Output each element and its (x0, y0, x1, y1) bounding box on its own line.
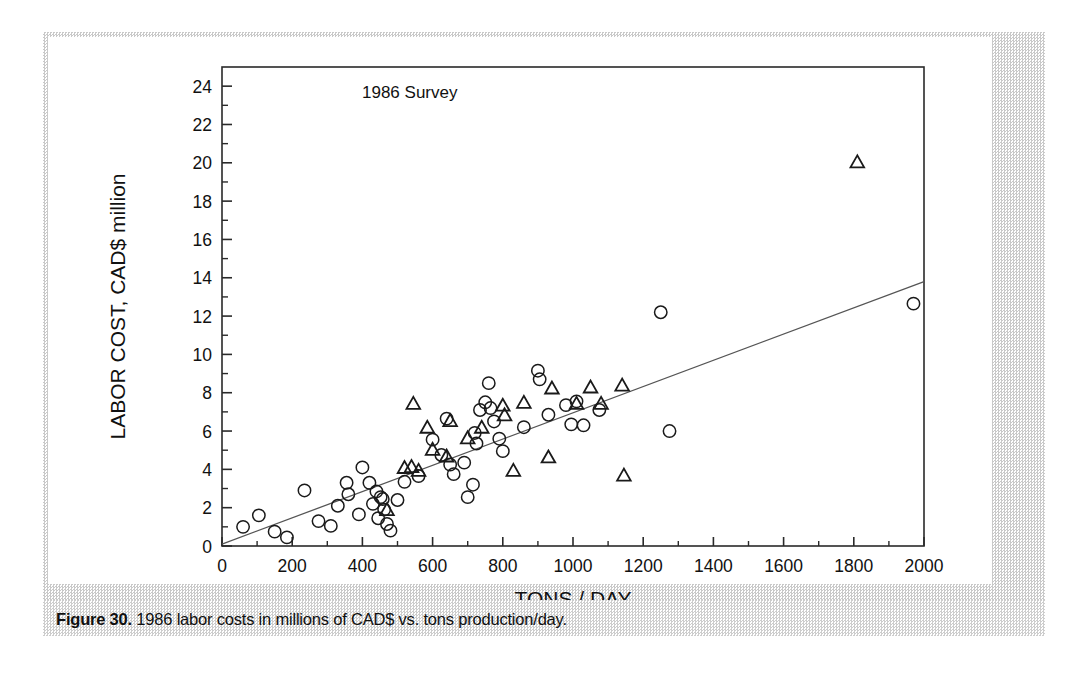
data-point-triangle (461, 431, 475, 443)
data-point-circle (340, 477, 352, 489)
x-tick-label: 200 (278, 556, 307, 576)
data-point-circle (281, 531, 293, 543)
y-tick-label: 14 (193, 268, 213, 288)
x-tick-label: 800 (488, 556, 517, 576)
data-point-circle (483, 377, 495, 389)
x-tick-label: 0 (217, 556, 227, 576)
data-point-circle (353, 508, 365, 520)
data-point-triangle (496, 399, 510, 411)
y-tick-label: 10 (193, 345, 213, 365)
data-point-circle (372, 512, 384, 524)
data-point-circle (593, 404, 605, 416)
data-point-triangle (517, 396, 531, 408)
data-point-circle (391, 494, 403, 506)
chart-svg: 0200400600800100012001400160018002000024… (0, 0, 1090, 674)
data-point-circle (312, 515, 324, 527)
x-tick-label: 600 (418, 556, 447, 576)
scatter-chart: 0200400600800100012001400160018002000024… (0, 0, 1090, 674)
data-point-circle (467, 478, 479, 490)
caption-figure-label: Figure 30. (56, 610, 132, 628)
x-tick-label: 1600 (764, 556, 803, 576)
data-point-triangle (507, 464, 521, 476)
x-tick-label: 1400 (694, 556, 733, 576)
data-point-triangle (615, 379, 629, 391)
y-tick-label: 0 (202, 537, 212, 557)
plot-annotation: 1986 Survey (362, 83, 458, 102)
series-circles (237, 297, 920, 543)
x-tick-label: 400 (348, 556, 377, 576)
data-point-circle (458, 456, 470, 468)
data-point-circle (325, 520, 337, 532)
y-tick-label: 2 (202, 498, 212, 518)
y-tick-label: 22 (193, 115, 212, 135)
x-tick-label: 2000 (905, 556, 944, 576)
x-tick-label: 1000 (554, 556, 593, 576)
x-tick-label: 1800 (834, 556, 873, 576)
data-point-circle (237, 521, 249, 533)
data-point-circle (356, 461, 368, 473)
data-point-triangle (851, 155, 865, 167)
y-tick-label: 8 (202, 383, 212, 403)
data-point-circle (907, 297, 919, 309)
data-point-circle (298, 484, 310, 496)
data-point-circle (542, 409, 554, 421)
data-point-triangle (617, 469, 631, 481)
y-tick-label: 18 (193, 192, 212, 212)
figure-caption: Figure 30. 1986 labor costs in millions … (56, 607, 1016, 631)
data-point-circle (577, 419, 589, 431)
trend-line (222, 282, 924, 544)
data-point-circle (363, 477, 375, 489)
plot-frame (222, 67, 924, 546)
data-point-circle (497, 445, 509, 457)
y-tick-label: 12 (193, 307, 212, 327)
data-point-circle (565, 418, 577, 430)
data-point-circle (462, 491, 474, 503)
caption-body-text: 1986 labor costs in millions of CAD$ vs.… (132, 610, 567, 628)
data-point-triangle (421, 421, 435, 433)
y-tick-label: 20 (193, 153, 213, 173)
y-tick-label: 6 (202, 422, 212, 442)
series-triangles (380, 155, 864, 515)
data-point-circle (655, 306, 667, 318)
y-tick-label: 16 (193, 230, 212, 250)
data-point-circle (253, 509, 265, 521)
y-tick-label: 4 (202, 460, 212, 480)
data-point-circle (488, 415, 500, 427)
data-point-circle (342, 488, 354, 500)
data-point-triangle (545, 381, 559, 393)
data-point-circle (398, 476, 410, 488)
y-tick-label: 24 (193, 77, 213, 97)
figure-page: 0200400600800100012001400160018002000024… (0, 0, 1090, 674)
x-tick-label: 1200 (624, 556, 663, 576)
data-point-triangle (542, 450, 556, 462)
data-point-circle (533, 373, 545, 385)
data-point-triangle (584, 381, 598, 393)
data-point-circle (663, 425, 675, 437)
data-point-circle (532, 364, 544, 376)
y-axis-title: LABOR COST, CAD$ million (106, 173, 129, 439)
data-point-circle (268, 525, 280, 537)
data-point-triangle (406, 397, 420, 409)
